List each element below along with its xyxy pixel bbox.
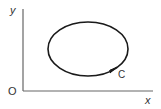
origin-label: O [8,86,17,97]
curve-label: C [118,70,125,80]
diagram-canvas [0,0,161,109]
arrowhead-icon [110,67,118,73]
y-axis-label: y [10,5,16,16]
x-axis-label: x [145,95,151,106]
